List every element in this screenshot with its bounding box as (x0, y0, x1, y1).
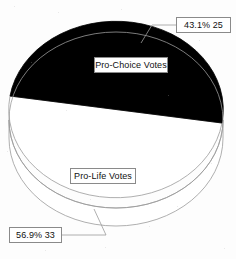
value-callout-pro-life: 56.9% 33 (9, 227, 62, 243)
pie-chart-graphic (0, 0, 236, 259)
slice-label-pro-life: Pro-Life Votes (70, 168, 136, 184)
slice-label-pro-choice: Pro-Choice Votes (94, 57, 168, 73)
value-callout-pro-choice: 43.1% 25 (176, 17, 231, 33)
pie-chart-figure: Pro-Choice Votes Pro-Life Votes 43.1% 25… (0, 0, 236, 259)
